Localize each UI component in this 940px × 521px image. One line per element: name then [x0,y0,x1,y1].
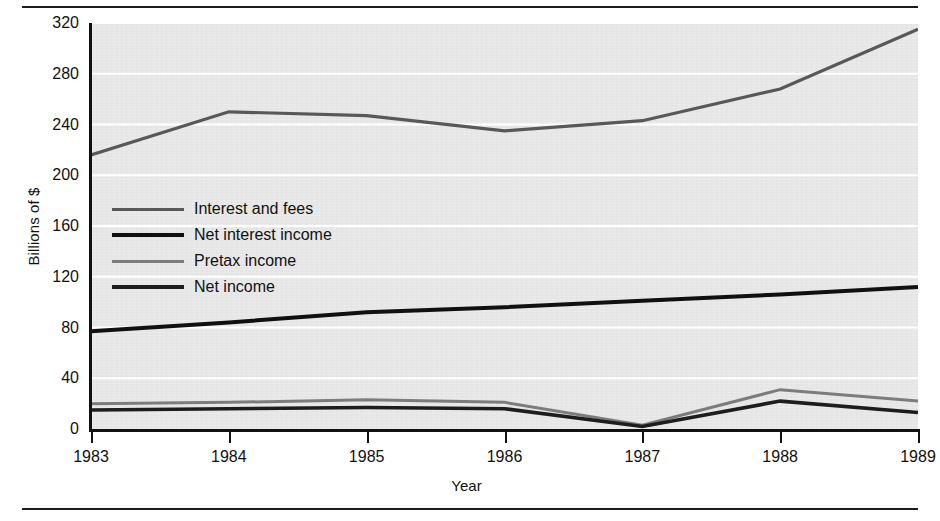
x-axis-tick-mark [918,432,920,443]
x-axis-tick-label: 1983 [56,449,126,465]
y-axis-tick-label: 0 [27,421,79,437]
x-axis-tick-label: 1987 [607,449,677,465]
y-axis-tick-label: 200 [27,167,79,183]
top-divider-rule [22,6,918,8]
x-axis-tick-mark [780,432,782,443]
chart-legend: Interest and fees Net interest income Pr… [112,196,332,300]
legend-item-pretax-income: Pretax income [112,248,332,274]
legend-label-net-interest-income: Net interest income [194,226,332,244]
y-axis-tick-label: 320 [27,15,79,31]
legend-swatch-icon-net-income [112,285,184,289]
legend-label-interest-and-fees: Interest and fees [194,200,313,218]
y-axis-tick-label: 160 [27,218,79,234]
x-axis-tick-label: 1984 [194,449,264,465]
x-axis-tick-mark [91,432,93,443]
x-axis-tick-label: 1988 [745,449,815,465]
y-axis-tick-label: 80 [27,320,79,336]
x-axis-tick-mark [505,432,507,443]
legend-item-net-interest-income: Net interest income [112,222,332,248]
x-axis-tick-mark [229,432,231,443]
y-axis-tick-label: 120 [27,269,79,285]
series-line [91,401,918,426]
series-line [91,29,918,155]
legend-label-pretax-income: Pretax income [194,252,296,270]
legend-swatch-icon-interest-and-fees [112,208,184,211]
legend-swatch-icon-net-interest-income [112,233,184,237]
legend-label-net-income: Net income [194,278,275,296]
y-axis-tick-label: 240 [27,117,79,133]
x-axis-tick-label: 1989 [883,449,940,465]
x-axis-tick-mark [642,432,644,443]
y-axis-tick-label: 40 [27,370,79,386]
legend-item-net-income: Net income [112,274,332,300]
x-axis-line [89,429,920,432]
legend-item-interest-and-fees: Interest and fees [112,196,332,222]
x-axis-tick-label: 1985 [332,449,402,465]
x-axis-title: Year [0,477,933,494]
y-axis-tick-label: 280 [27,66,79,82]
x-axis-tick-label: 1986 [470,449,540,465]
legend-swatch-icon-pretax-income [112,260,184,263]
x-axis-tick-mark [367,432,369,443]
bottom-divider-rule [22,508,918,510]
y-axis-line [89,23,92,432]
